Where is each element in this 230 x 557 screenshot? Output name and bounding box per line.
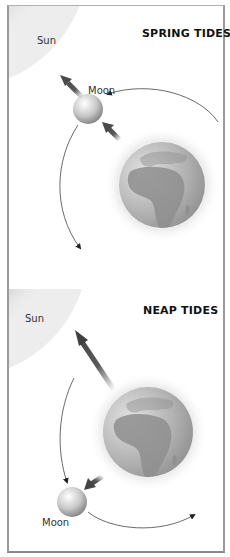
orbit-arc-lower <box>60 125 80 248</box>
arrow-earth-to-sun <box>75 330 114 390</box>
spring-moon-label: Moon <box>88 85 115 96</box>
moon-shape <box>73 94 103 124</box>
neap-moon-label: Moon <box>42 517 69 528</box>
neap-tides-title: NEAP TIDES <box>143 304 218 317</box>
tides-illustration <box>0 0 230 557</box>
moon-shape <box>57 487 87 517</box>
orbit-arc-left <box>60 378 74 482</box>
orbit-arc-bottom <box>88 512 194 528</box>
spring-tides-title: SPRING TIDES <box>142 27 230 40</box>
arrow-moon-to-sun <box>60 75 82 97</box>
arrow-earth-to-moon <box>84 476 103 490</box>
neap-sun-label: Sun <box>25 313 44 324</box>
arrow-earth-to-moon <box>102 122 120 140</box>
spring-sun-label: Sun <box>37 35 56 46</box>
orbit-arc-upper <box>108 89 218 122</box>
